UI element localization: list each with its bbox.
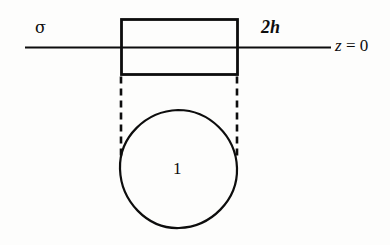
thickness-label: 2h	[261, 18, 280, 36]
diagram-canvas: σ 2h z = 0 1	[0, 0, 390, 245]
sigma-label: σ	[35, 20, 46, 36]
region-one-label: 1	[173, 160, 182, 177]
z-equals-value-text: = 0	[342, 36, 369, 55]
diagram-vector-layer	[0, 0, 390, 245]
z-variable-glyph: z	[335, 36, 342, 55]
z-equals-zero-label: z = 0	[335, 37, 368, 54]
